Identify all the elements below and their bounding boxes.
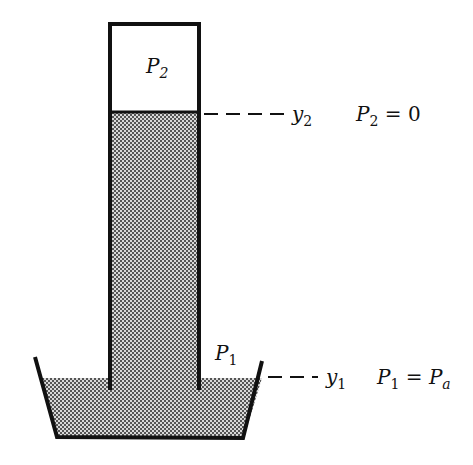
barometer-diagram: P2 y2 P2 = 0 P1 y1 P1 = Pa [0,0,473,465]
equation-p1-equals-pa: P1 = Pa [376,365,451,392]
label-y2: y2 [291,102,312,129]
equation-p2-equals-zero: P2 = 0 [355,102,421,129]
label-y1: y1 [325,365,346,392]
tube-liquid-column [110,113,199,388]
label-p1-basin: P1 [214,341,237,368]
